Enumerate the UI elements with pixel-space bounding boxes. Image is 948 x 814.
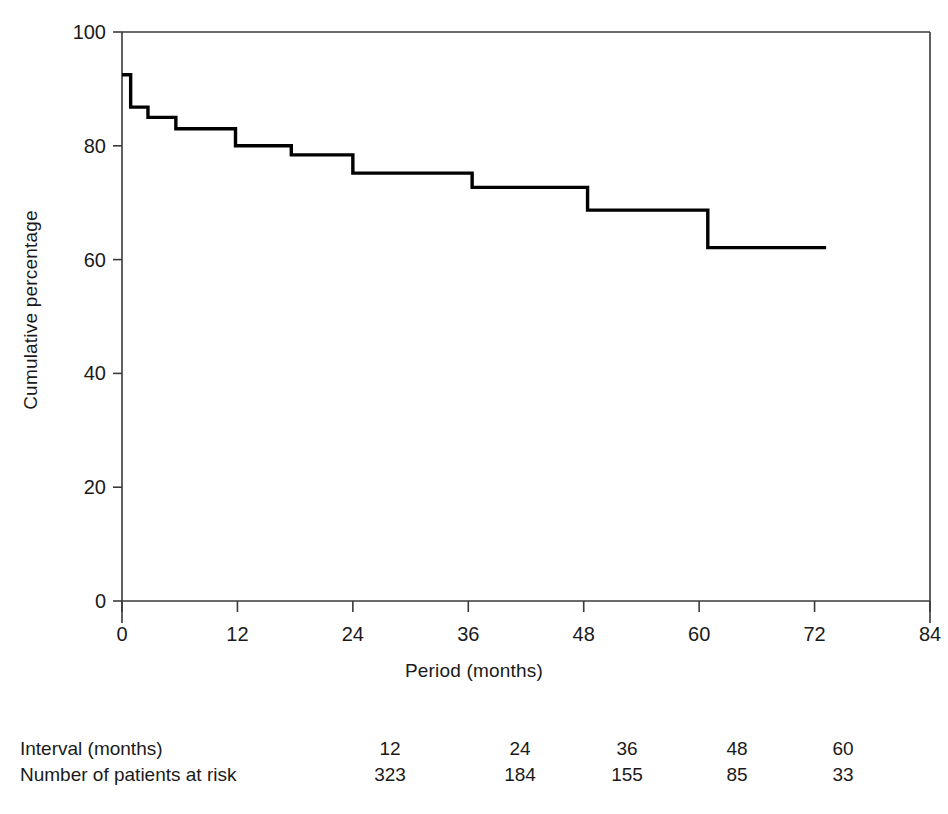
table-row: Number of patients at risk 3231841558533	[0, 764, 948, 790]
y-axis-title: Cumulative percentage	[20, 210, 42, 410]
at-risk-cell: 184	[490, 764, 550, 786]
y-tick-label: 60	[84, 249, 106, 271]
x-tick-label: 60	[688, 623, 710, 645]
interval-cell: 24	[490, 738, 550, 760]
at-risk-cell: 323	[360, 764, 420, 786]
at-risk-cell: 155	[597, 764, 657, 786]
y-tick-label: 100	[73, 21, 106, 43]
table-row: Interval (months) 1224364860	[0, 738, 948, 764]
x-tick-label: 72	[803, 623, 825, 645]
interval-cell: 60	[813, 738, 873, 760]
interval-cell: 48	[707, 738, 767, 760]
kaplan-meier-figure: 020406080100012243648607284 Period (mont…	[0, 0, 948, 814]
at-risk-cell: 33	[813, 764, 873, 786]
x-tick-label: 0	[116, 623, 127, 645]
x-tick-label: 36	[457, 623, 479, 645]
row-label-interval: Interval (months)	[20, 738, 163, 760]
y-tick-label: 80	[84, 135, 106, 157]
row-label-at-risk: Number of patients at risk	[20, 764, 236, 786]
x-tick-label: 48	[573, 623, 595, 645]
x-tick-label: 12	[226, 623, 248, 645]
interval-cell: 12	[360, 738, 420, 760]
y-tick-label: 40	[84, 362, 106, 384]
x-tick-label: 24	[342, 623, 364, 645]
x-axis-title: Period (months)	[0, 660, 948, 682]
interval-cell: 36	[597, 738, 657, 760]
numbers-at-risk-table: Interval (months) 1224364860 Number of p…	[0, 738, 948, 800]
survival-curve-plot: 020406080100012243648607284	[0, 0, 948, 814]
x-tick-label: 84	[919, 623, 941, 645]
at-risk-cell: 85	[707, 764, 767, 786]
survival-step-line	[122, 75, 826, 248]
y-tick-label: 20	[84, 476, 106, 498]
y-tick-label: 0	[95, 590, 106, 612]
